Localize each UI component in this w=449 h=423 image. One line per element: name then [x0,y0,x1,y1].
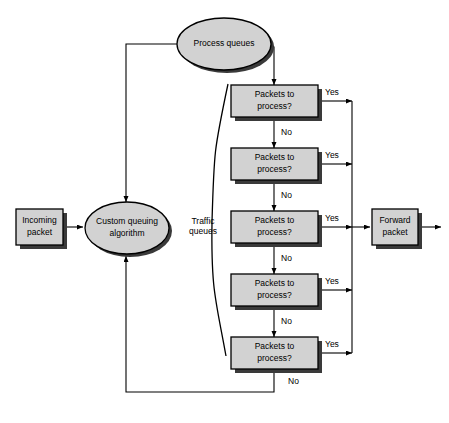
decision-4-label-line1: Packets to [255,278,295,288]
decision-1-no-label: No [281,127,292,137]
decision-5-label-line1: Packets to [255,341,295,351]
traffic-queues-label-line1: Traffic [191,216,215,226]
node-incoming-packet[interactable]: Incoming packet [16,209,67,249]
node-decision-3[interactable]: Packets to process? [231,211,322,247]
node-decision-5[interactable]: Packets to process? [231,337,322,373]
decision-3-no-label: No [281,253,292,263]
node-decision-4[interactable]: Packets to process? [231,274,322,310]
decision-1-yes-label: Yes [325,87,339,97]
decision-3-label-line2: process? [257,227,292,237]
forward-packet-label-line2: packet [382,227,408,237]
decision-1-label-line1: Packets to [255,89,295,99]
decision-4-label-line2: process? [257,290,292,300]
node-custom-queuing-algorithm[interactable]: Custom queuing algorithm [85,202,172,257]
node-decision-1[interactable]: Packets to process? [231,85,322,121]
traffic-queues-label-line2: queues [189,226,217,236]
decision-2-yes-label: Yes [325,150,339,160]
decision-4-no-label: No [281,316,292,326]
flowchart-canvas: Process queues Incoming packet Custom qu… [0,0,449,423]
decision-3-label-line1: Packets to [255,215,295,225]
decision-5-yes-label: Yes [325,339,339,349]
decision-2-label-line1: Packets to [255,152,295,162]
incoming-packet-label-line2: packet [27,227,53,237]
process-queues-label: Process queues [194,38,255,48]
custom-queuing-algorithm-label-line2: algorithm [110,228,145,238]
edge-processqueues-to-algorithm [126,44,177,202]
final-no-label: No [288,376,299,386]
incoming-packet-label-line1: Incoming [22,215,57,225]
node-forward-packet[interactable]: Forward packet [372,209,422,249]
flowchart-svg: Process queues Incoming packet Custom qu… [0,0,449,423]
decision-3-yes-label: Yes [325,213,339,223]
node-decision-2[interactable]: Packets to process? [231,148,322,184]
decision-2-label-line2: process? [257,164,292,174]
decision-5-label-line2: process? [257,353,292,363]
node-process-queues[interactable]: Process queues [177,18,274,73]
decision-4-yes-label: Yes [325,276,339,286]
custom-queuing-algorithm-label-line1: Custom queuing [96,216,158,226]
decision-1-label-line2: process? [257,101,292,111]
decision-2-no-label: No [281,190,292,200]
forward-packet-label-line1: Forward [379,215,410,225]
